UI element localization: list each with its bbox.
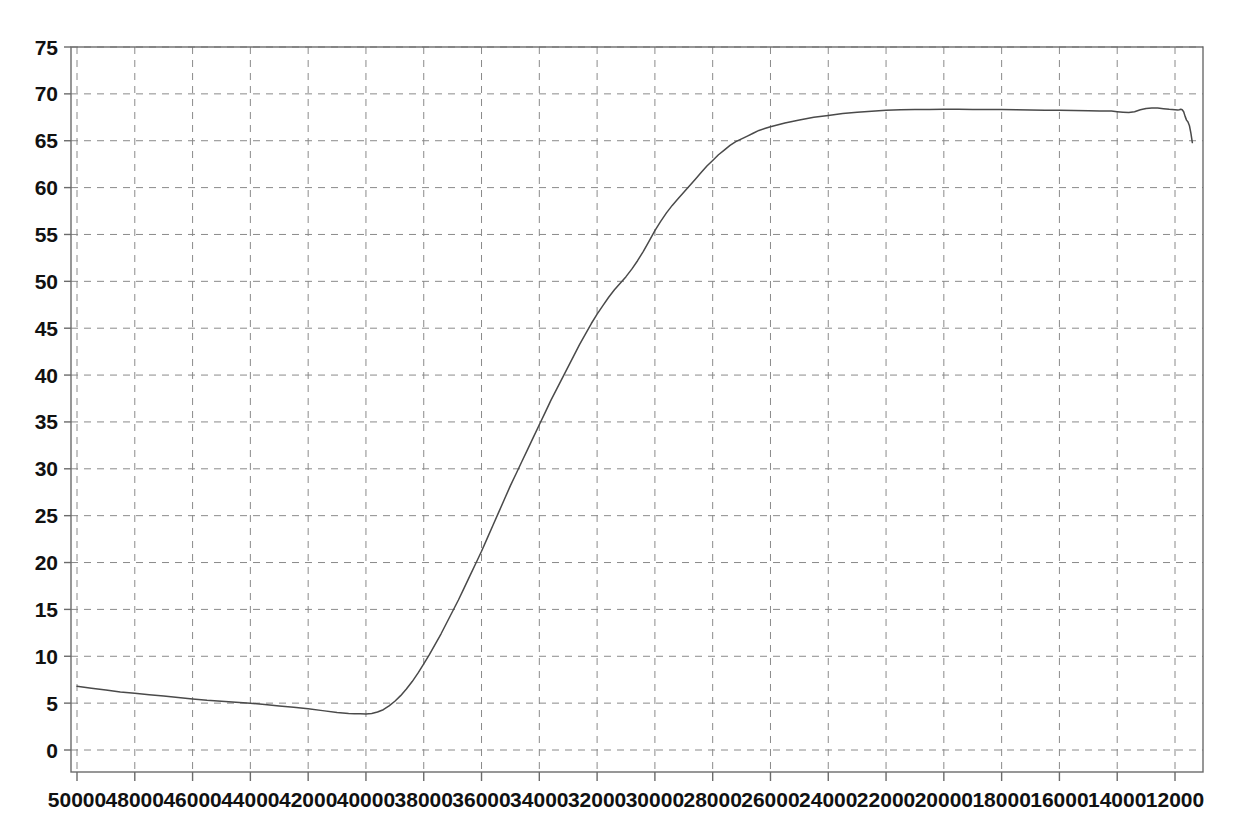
x-tick-label: 42000 — [279, 788, 337, 811]
x-tick-label: 24000 — [799, 788, 857, 811]
y-tick-label: 5 — [46, 692, 58, 715]
x-tick-label: 46000 — [163, 788, 221, 811]
chart-container: 051015202530354045505560657075 500004800… — [0, 0, 1242, 831]
x-tick-label: 34000 — [510, 788, 568, 811]
x-tick-label: 16000 — [1030, 788, 1088, 811]
x-tick-label: 22000 — [857, 788, 915, 811]
x-tick-label: 48000 — [106, 788, 164, 811]
y-tick-label: 25 — [35, 504, 59, 527]
y-tick-label: 65 — [35, 129, 59, 152]
x-tick-label: 30000 — [626, 788, 684, 811]
x-tick-label: 50000 — [48, 788, 106, 811]
x-tick-label: 20000 — [915, 788, 973, 811]
y-tick-label: 55 — [35, 223, 59, 246]
chart-background — [0, 0, 1242, 831]
y-tick-label: 30 — [35, 457, 58, 480]
spectrum-chart: 051015202530354045505560657075 500004800… — [0, 0, 1242, 831]
y-tick-label: 20 — [35, 551, 58, 574]
x-tick-label: 40000 — [337, 788, 395, 811]
y-tick-label: 40 — [35, 364, 58, 387]
x-tick-label: 18000 — [972, 788, 1030, 811]
x-tick-label: 26000 — [741, 788, 799, 811]
x-axis-tick-labels: 5000048000460004400042000400003800036000… — [48, 788, 1204, 811]
y-tick-label: 35 — [35, 410, 59, 433]
y-tick-label: 60 — [35, 176, 58, 199]
x-tick-label: 36000 — [452, 788, 510, 811]
x-tick-label: 12000 — [1146, 788, 1204, 811]
x-tick-label: 32000 — [568, 788, 626, 811]
y-tick-label: 45 — [35, 317, 59, 340]
x-tick-label: 44000 — [221, 788, 279, 811]
y-tick-label: 15 — [35, 598, 59, 621]
y-tick-label: 50 — [35, 270, 58, 293]
x-tick-label: 28000 — [683, 788, 741, 811]
y-tick-label: 0 — [46, 739, 58, 762]
x-tick-label: 14000 — [1088, 788, 1146, 811]
x-tick-label: 38000 — [395, 788, 453, 811]
y-tick-label: 75 — [35, 36, 59, 59]
y-tick-label: 70 — [35, 82, 58, 105]
y-tick-label: 10 — [35, 645, 58, 668]
